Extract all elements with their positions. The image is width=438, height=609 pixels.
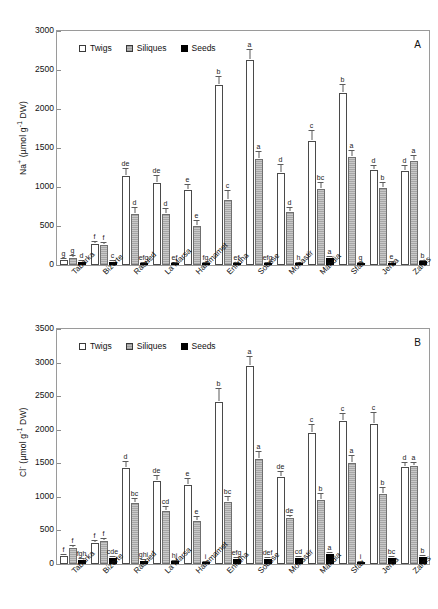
- significance-letter: e: [186, 176, 190, 183]
- bar-siliques: b: [317, 329, 325, 564]
- significance-letter: a: [350, 142, 354, 149]
- bar-group: cba: [305, 329, 336, 564]
- error-bar: [289, 207, 290, 211]
- y-tick-label: 2500: [35, 64, 54, 74]
- bar-siliques: a: [348, 329, 356, 564]
- error-bar: [311, 130, 312, 139]
- y-axis-ticks-b: 0500100015002000250030003500: [26, 328, 54, 563]
- error-bar: [280, 164, 281, 172]
- y-tick-label: 2500: [35, 390, 54, 400]
- y-tick-label: 500: [40, 220, 54, 230]
- significance-letter: a: [328, 544, 332, 551]
- bar-siliques: a: [410, 329, 418, 564]
- bar-siliques: a: [348, 31, 356, 265]
- bar-siliques: e: [193, 31, 201, 265]
- y-tick-mark: [57, 530, 61, 531]
- bar-seeds: efg: [264, 31, 272, 265]
- bar-seeds: cd: [295, 329, 303, 564]
- bar-seeds: b: [419, 329, 427, 564]
- significance-letter: c: [310, 122, 314, 129]
- bar-seeds: h: [295, 31, 303, 265]
- y-tick-label: 1500: [35, 142, 54, 152]
- error-bar: [218, 76, 219, 84]
- y-tick-label: 2000: [35, 103, 54, 113]
- bar-group: ffc: [88, 31, 119, 265]
- bar-seeds: cde: [109, 329, 117, 564]
- bar-rect: c: [224, 200, 232, 265]
- bar-siliques: b: [379, 31, 387, 265]
- y-tick-mark: [57, 226, 61, 227]
- significance-letter: d: [164, 200, 168, 207]
- significance-letter: b: [381, 174, 385, 181]
- bar-rect: e: [193, 521, 201, 564]
- significance-letter: cd: [162, 498, 169, 505]
- bar-rect: d: [131, 214, 139, 265]
- y-tick-mark: [57, 70, 61, 71]
- significance-letter: c: [310, 416, 314, 423]
- significance-letter: d: [133, 199, 137, 206]
- bar-group: aadef: [243, 329, 274, 564]
- bar-groups-b: fffghffcdedbcghidecdhieeibbcefgaadefdede…: [57, 329, 429, 564]
- error-bar: [218, 388, 219, 400]
- bar-group: dbcghi: [119, 329, 150, 564]
- error-bar: [311, 424, 312, 431]
- bar-seeds: hi: [171, 329, 179, 564]
- bar-siliques: f: [100, 31, 108, 265]
- error-bar: [196, 220, 197, 225]
- error-bar: [249, 49, 250, 59]
- error-bar: [382, 487, 383, 493]
- significance-letter: f: [94, 233, 96, 240]
- bar-rect: b: [215, 85, 223, 265]
- error-bar: [320, 182, 321, 188]
- bar-siliques: de: [286, 329, 294, 564]
- significance-letter: c: [372, 404, 376, 411]
- error-bar: [94, 241, 95, 243]
- y-tick-label: 1500: [35, 457, 54, 467]
- error-bar: [196, 516, 197, 520]
- bar-twigs: c: [308, 329, 316, 564]
- bar-rect: a: [246, 60, 254, 265]
- y-tick-label: 2000: [35, 424, 54, 434]
- significance-letter: de: [153, 167, 161, 174]
- bar-seeds: a: [326, 329, 334, 564]
- bar-group: fffgh: [57, 329, 88, 564]
- bar-group: bag: [336, 31, 367, 265]
- bar-rect: bc: [131, 503, 139, 564]
- bar-rect: a: [246, 366, 254, 564]
- y-tick-label: 3000: [35, 357, 54, 367]
- bar-group: dedefg: [119, 31, 150, 265]
- error-bar: [125, 461, 126, 468]
- y-axis-ticks-a: 050010001500200025003000: [26, 30, 54, 264]
- bar-group: eefg: [181, 31, 212, 265]
- y-tick-label: 1000: [35, 491, 54, 501]
- bar-rect: a: [410, 161, 418, 265]
- significance-letter: d: [124, 453, 128, 460]
- error-bar: [103, 242, 104, 244]
- bar-seeds: efg: [140, 31, 148, 265]
- panel-b: Cl- (µmol g-1 DW) 0500100015002000250030…: [0, 305, 438, 609]
- y-tick-mark: [57, 187, 61, 188]
- significance-letter: b: [217, 380, 221, 387]
- error-bar: [103, 538, 104, 540]
- bar-siliques: a: [410, 31, 418, 265]
- error-bar: [413, 155, 414, 160]
- y-tick-mark: [57, 430, 61, 431]
- bar-rect: de: [286, 518, 294, 564]
- bar-twigs: b: [215, 329, 223, 564]
- bar-rect: d: [286, 212, 294, 265]
- bar-seeds: ef: [233, 31, 241, 265]
- y-tick-mark: [57, 148, 61, 149]
- bar-twigs: d: [122, 329, 130, 564]
- bar-twigs: de: [122, 31, 130, 265]
- bar-twigs: de: [153, 31, 161, 265]
- y-tick-mark: [57, 329, 61, 330]
- bar-group: dab: [398, 329, 429, 564]
- error-bar: [134, 498, 135, 502]
- significance-letter: b: [421, 547, 425, 554]
- y-tick-mark: [57, 463, 61, 464]
- error-bar: [125, 168, 126, 175]
- error-bar: [63, 258, 64, 259]
- y-tick-mark: [57, 363, 61, 364]
- significance-letter: f: [72, 537, 74, 544]
- bar-seeds: i: [357, 329, 365, 564]
